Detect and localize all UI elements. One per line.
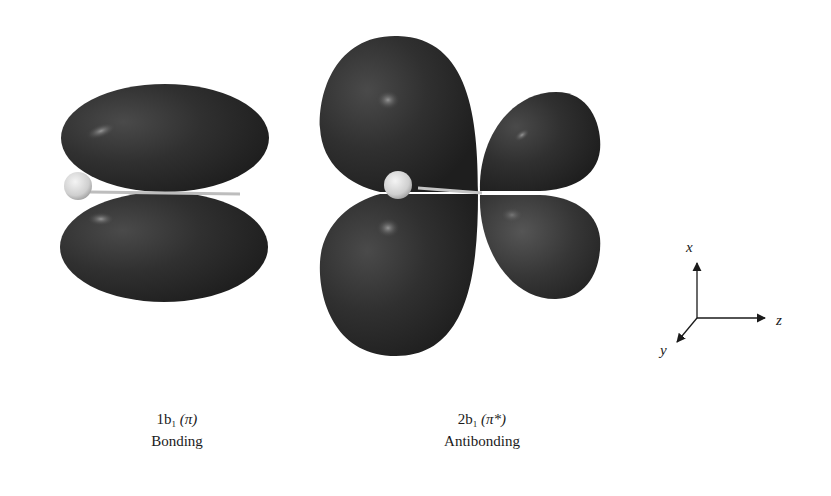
antibonding-atom-sphere	[384, 171, 412, 199]
bonding-atom-sphere	[64, 172, 92, 200]
antibonding-bottom-left-highlight	[376, 218, 400, 238]
antibonding-top-right-lobe	[480, 92, 600, 191]
bonding-description: Bonding	[77, 433, 277, 450]
antibonding-bottom-right-lobe	[480, 195, 600, 299]
z-axis-label: z	[776, 313, 782, 328]
antibonding-label-symmetry: (π*)	[481, 411, 506, 427]
antibonding-bottom-left-lobe	[320, 194, 478, 356]
antibonding-description: Antibonding	[382, 433, 582, 450]
coordinate-axes	[677, 263, 765, 342]
antibonding-caption: 2b1 (π*) Antibonding	[382, 411, 582, 450]
antibonding-bottom-right-highlight	[500, 207, 524, 223]
antibonding-label-prefix: 2b	[458, 411, 473, 427]
bonding-label-prefix: 1b	[157, 411, 172, 427]
bonding-bottom-lobe	[60, 192, 268, 302]
antibonding-label-subscript: 1	[473, 419, 478, 429]
antibonding-orbital-label: 2b1 (π*)	[382, 411, 582, 433]
bonding-label-subscript: 1	[172, 419, 177, 429]
bonding-orbital-label: 1b1 (π)	[77, 411, 277, 433]
x-axis-label: x	[686, 240, 693, 255]
bonding-orbital-1b1	[60, 84, 269, 302]
bonding-bottom-lobe-highlight	[87, 212, 115, 226]
antibonding-orbital-2b1	[320, 36, 600, 356]
bonding-caption: 1b1 (π) Bonding	[77, 411, 277, 450]
bonding-label-symmetry: (π)	[180, 411, 198, 427]
antibonding-top-left-highlight	[376, 90, 400, 110]
y-axis-arrow	[677, 318, 697, 342]
bonding-bond-line	[90, 192, 240, 194]
antibonding-top-left-lobe	[320, 36, 478, 192]
y-axis-label: y	[660, 343, 667, 358]
